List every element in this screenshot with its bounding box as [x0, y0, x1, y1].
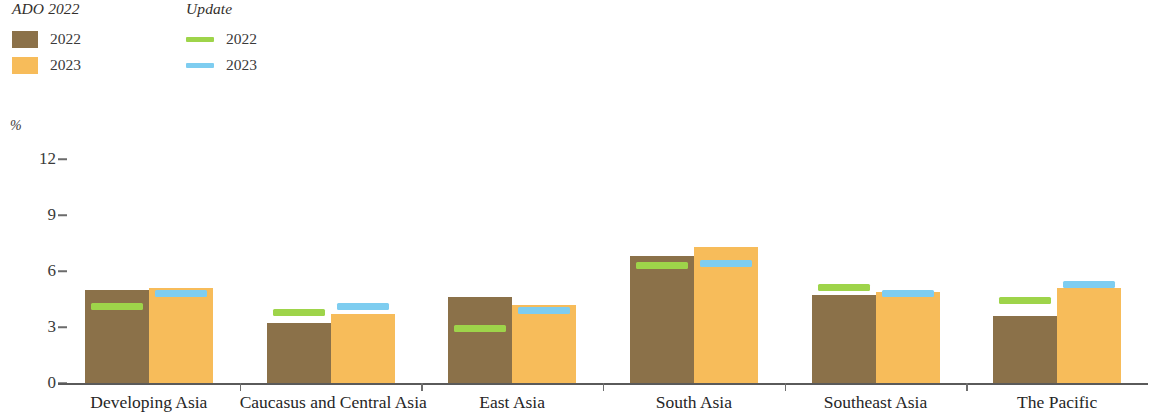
marker-update-2023 [700, 260, 752, 267]
marker-update-2022 [454, 325, 506, 332]
x-axis-separator-tick [421, 383, 422, 391]
marker-update-2022 [999, 297, 1051, 304]
y-axis-tick-label: 9 [0, 205, 56, 225]
marker-update-2023 [155, 290, 207, 297]
bar-ado-2023 [694, 247, 758, 383]
x-axis-category-label: Developing Asia [58, 392, 240, 413]
marker-update-2022 [636, 262, 688, 269]
y-axis-tick-label: 0 [0, 373, 56, 393]
marker-update-2022 [91, 303, 143, 310]
x-axis-category-label: The Pacific [966, 392, 1148, 413]
y-axis-tick-mark [58, 326, 67, 328]
bar-ado-2022 [630, 256, 694, 383]
y-axis-tick-label: 12 [0, 149, 56, 169]
bar-ado-2023 [149, 288, 213, 383]
marker-update-2023 [518, 307, 570, 314]
x-axis-separator-tick [240, 383, 241, 391]
y-axis-tick-mark [58, 158, 67, 160]
x-axis-separator-tick [785, 383, 786, 391]
marker-update-2023 [337, 303, 389, 310]
y-axis-tick-mark [58, 214, 67, 216]
bar-ado-2022 [267, 323, 331, 383]
marker-update-2022 [273, 309, 325, 316]
x-axis-separator-tick [966, 383, 967, 391]
marker-update-2023 [1063, 281, 1115, 288]
x-axis-category-label: South Asia [603, 392, 785, 413]
bar-ado-2023 [512, 305, 576, 383]
x-axis-separator-tick [603, 383, 604, 391]
x-axis-category-label: Caucasus and Central Asia [240, 392, 422, 413]
x-axis-category-label: East Asia [421, 392, 603, 413]
bar-ado-2022 [448, 297, 512, 383]
y-axis-tick-label: 3 [0, 317, 56, 337]
y-axis-unit-label: % [10, 118, 22, 134]
chart-plot-area: % 036912 Developing AsiaCaucasus and Cen… [0, 0, 1153, 417]
bar-ado-2022 [993, 316, 1057, 383]
x-axis-category-label: Southeast Asia [785, 392, 967, 413]
bar-ado-2022 [812, 295, 876, 383]
bar-ado-2023 [876, 292, 940, 383]
marker-update-2022 [818, 284, 870, 291]
marker-update-2023 [882, 290, 934, 297]
bar-ado-2023 [331, 314, 395, 383]
bar-ado-2023 [1057, 288, 1121, 383]
y-axis-tick-mark [58, 270, 67, 272]
y-axis-tick-label: 6 [0, 261, 56, 281]
